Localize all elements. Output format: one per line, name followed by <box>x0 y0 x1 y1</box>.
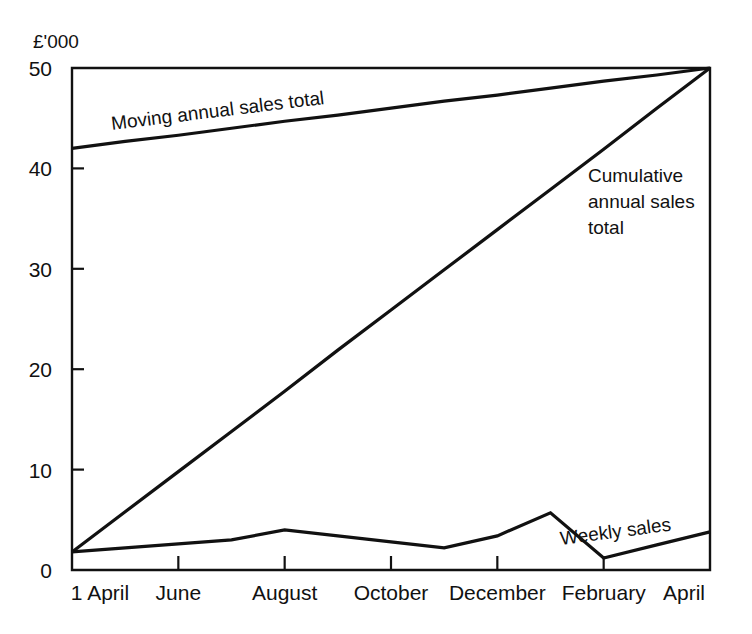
cumulative-annual-sales-total-label-line: total <box>588 217 624 238</box>
y-tick-label: 40 <box>29 157 52 180</box>
line-chart: £'000 01020304050 1 AprilJuneAugustOctob… <box>0 0 752 634</box>
y-tick-label: 30 <box>29 258 52 281</box>
x-tick-label: October <box>354 581 429 604</box>
x-tick-label: April <box>663 581 705 604</box>
cumulative-annual-sales-total-label-line: annual sales <box>588 191 695 212</box>
x-tick-label: December <box>449 581 546 604</box>
cumulative-annual-sales-total-label-line: Cumulative <box>588 165 683 186</box>
y-tick-label: 20 <box>29 358 52 381</box>
y-tick-label: 50 <box>29 57 52 80</box>
x-tick-label: February <box>562 581 647 604</box>
y-tick-label: 0 <box>40 559 52 582</box>
x-axis-tick-labels: 1 AprilJuneAugustOctoberDecemberFebruary… <box>71 581 705 604</box>
x-tick-label: 1 April <box>71 581 129 604</box>
chart-container: £'000 01020304050 1 AprilJuneAugustOctob… <box>0 0 752 634</box>
x-tick-label: June <box>156 581 202 604</box>
y-tick-label: 10 <box>29 459 52 482</box>
y-axis-unit-label: £'000 <box>33 31 79 52</box>
x-tick-label: August <box>252 581 318 604</box>
